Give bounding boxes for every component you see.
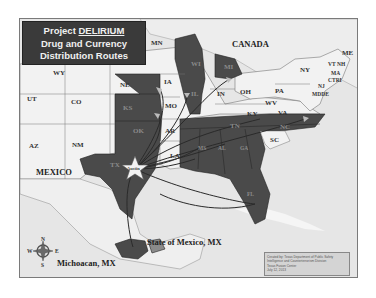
label-oh: OH: [240, 88, 251, 96]
label-la: LA: [170, 152, 180, 160]
label-nc: NC: [280, 123, 290, 131]
label-ok: OK: [133, 127, 144, 135]
label-ia: IA: [164, 78, 172, 86]
label-tn: TN: [230, 122, 240, 130]
label-al: AL: [218, 145, 226, 151]
label-canada: CANADA: [232, 39, 269, 49]
label-vt: VT: [328, 61, 336, 67]
label-tx: TX: [110, 161, 120, 169]
label-fl: FL: [247, 191, 254, 197]
label-ct-ri: CTRI: [328, 77, 342, 83]
label-in: IN: [217, 90, 225, 98]
label-ne: NE: [120, 81, 130, 89]
label-ut: UT: [27, 95, 37, 103]
compass-w: W: [27, 248, 33, 254]
label-ny: NY: [300, 66, 310, 74]
label-de: DE: [321, 91, 329, 97]
label-va: VA: [278, 109, 287, 117]
compass-e: E: [55, 248, 59, 254]
label-vt-nh: VT NH: [328, 61, 345, 67]
label-ar: AR: [165, 127, 175, 135]
label-ma: MA: [331, 70, 340, 76]
label-pa: PA: [275, 87, 284, 95]
label-wv: WV: [265, 99, 277, 107]
label-ky: KY: [247, 110, 258, 118]
label-co: CO: [71, 98, 82, 106]
label-az: AZ: [29, 142, 39, 150]
map-title: Project DELIRIUM Drug and Currency Distr…: [22, 21, 146, 65]
credit-line-4: July 12, 2013: [267, 268, 347, 272]
credit-box: Created by: Texas Department of Public S…: [264, 252, 350, 276]
label-mi: MI: [224, 63, 233, 71]
label-mexico: MEXICO: [36, 167, 72, 177]
label-il: IL: [191, 90, 198, 98]
label-ga: GA: [240, 145, 248, 151]
label-ks: KS: [123, 104, 132, 112]
label-nm: NM: [72, 141, 84, 149]
label-mn: MN: [151, 39, 163, 47]
label-wi: WI: [191, 60, 201, 68]
label-wy: WY: [53, 69, 65, 77]
label-ms: MS: [198, 145, 206, 151]
title-line-1: Project DELIRIUM: [23, 25, 145, 38]
label-ri: RI: [336, 77, 342, 83]
label-michoacan: Michoacan, MX: [57, 258, 116, 268]
label-ct: CT: [328, 77, 336, 83]
title-project-name: DELIRIUM: [78, 25, 124, 36]
compass-s: S: [41, 262, 44, 268]
title-prefix: Project: [44, 25, 79, 36]
label-state-of-mexico: State of Mexico, MX: [147, 237, 222, 247]
map-frame: Project DELIRIUM Drug and Currency Distr…: [19, 18, 358, 278]
label-md-de: MDDE: [312, 91, 329, 97]
label-nh: NH: [337, 61, 345, 67]
compass-n: N: [41, 236, 45, 242]
label-nj: NJ: [318, 83, 325, 89]
label-sc: SC: [270, 136, 279, 144]
title-line-3: Distribution Routes: [23, 50, 145, 63]
title-line-2: Drug and Currency: [23, 38, 145, 51]
label-me: ME: [342, 49, 353, 57]
label-mo: MO: [165, 102, 177, 110]
label-md: MD: [312, 91, 321, 97]
label-austin: Austin: [127, 166, 140, 171]
